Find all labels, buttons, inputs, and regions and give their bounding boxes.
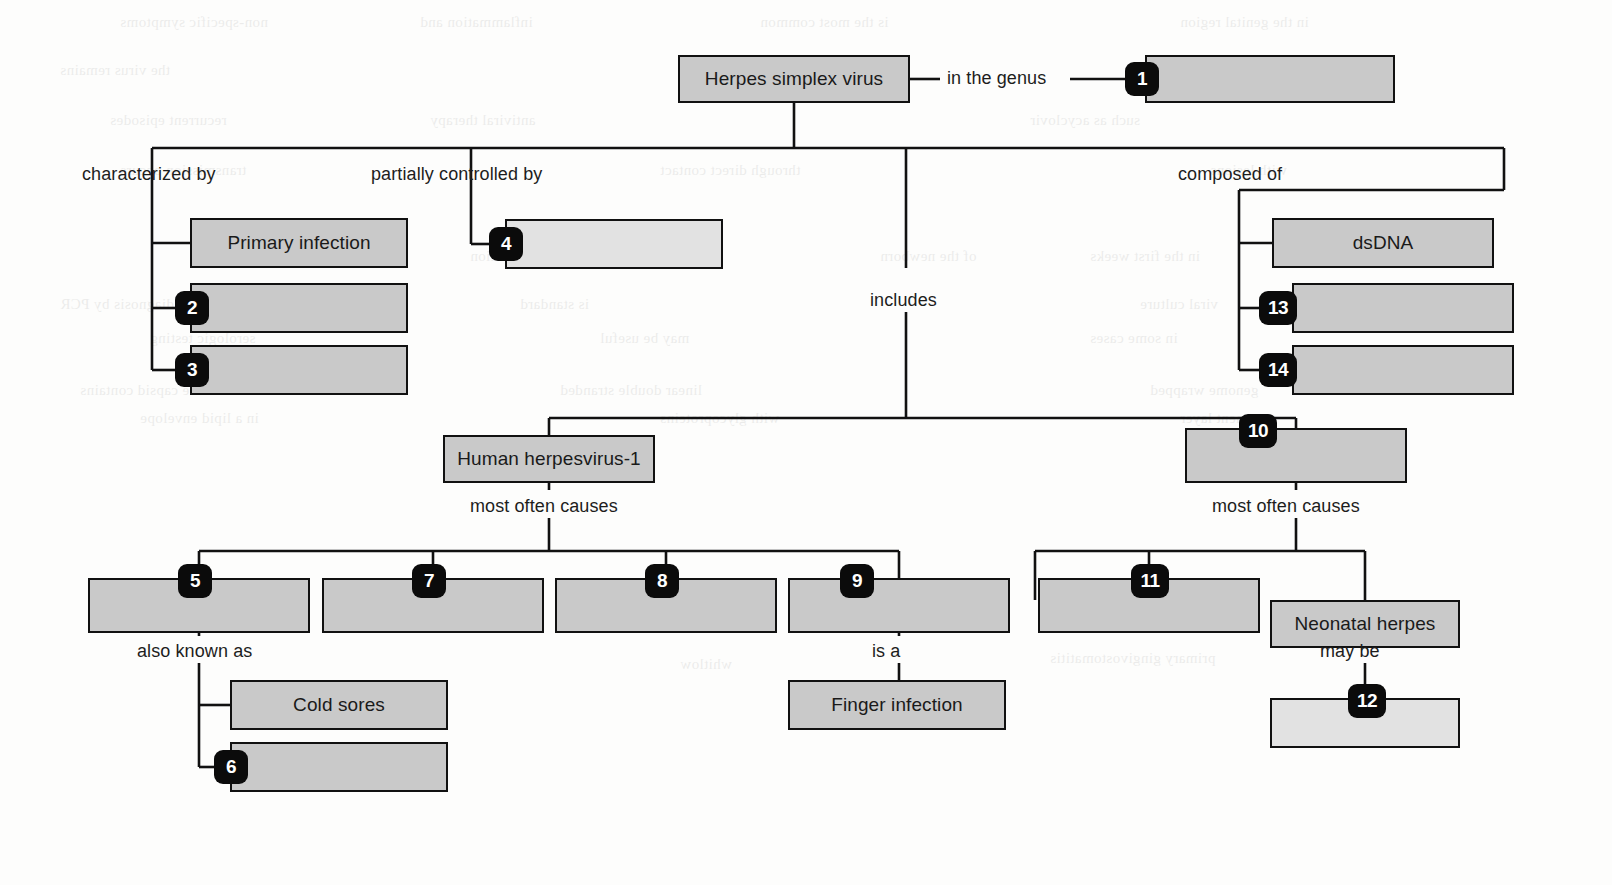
bleed-text: may be useful bbox=[600, 330, 689, 347]
link-label-composed-of: composed of bbox=[1178, 164, 1282, 185]
link-label-most-often-causes-right: most often causes bbox=[1212, 496, 1360, 517]
bleed-text: in a lipid envelope bbox=[140, 410, 259, 427]
blank-number-badge-7: 7 bbox=[412, 564, 446, 598]
node-n2[interactable] bbox=[190, 283, 408, 333]
node-label: Cold sores bbox=[293, 694, 385, 716]
blank-number-badge-14: 14 bbox=[1259, 353, 1297, 387]
node-primary[interactable]: Primary infection bbox=[190, 218, 408, 268]
node-dsdna[interactable]: dsDNA bbox=[1272, 218, 1494, 268]
bleed-text: antiviral therapy bbox=[430, 112, 536, 129]
node-n3[interactable] bbox=[190, 345, 408, 395]
link-label-also-known-as: also known as bbox=[137, 641, 252, 662]
bleed-text: the virus remains bbox=[60, 62, 170, 79]
node-n4[interactable] bbox=[505, 219, 723, 269]
node-n13[interactable] bbox=[1292, 283, 1514, 333]
node-n9[interactable] bbox=[788, 578, 1010, 633]
bleed-text: recurrent episodes bbox=[110, 112, 227, 129]
bleed-text: in some cases bbox=[1090, 330, 1178, 347]
link-label-may-be: may be bbox=[1320, 641, 1380, 662]
link-label-is-a: is a bbox=[872, 641, 900, 662]
bleed-text: through direct contact bbox=[660, 162, 800, 179]
node-cold[interactable]: Cold sores bbox=[230, 680, 448, 730]
node-n14[interactable] bbox=[1292, 345, 1514, 395]
node-label: Finger infection bbox=[831, 694, 963, 716]
blank-number-badge-9: 9 bbox=[840, 564, 874, 598]
bleed-text: non-specific symptoms bbox=[120, 14, 268, 31]
bleed-text: with glycoproteins bbox=[660, 410, 779, 427]
blank-number-badge-2: 2 bbox=[175, 291, 209, 325]
node-finger[interactable]: Finger infection bbox=[788, 680, 1006, 730]
node-label: Herpes simplex virus bbox=[705, 68, 883, 90]
bleed-text: in the first weeks bbox=[1090, 248, 1200, 265]
blank-number-badge-10: 10 bbox=[1239, 414, 1277, 448]
link-label-in-the-genus: in the genus bbox=[947, 68, 1046, 89]
blank-number-badge-13: 13 bbox=[1259, 291, 1297, 325]
blank-number-badge-12: 12 bbox=[1348, 684, 1386, 718]
link-label-includes: includes bbox=[870, 290, 937, 311]
node-label: Neonatal herpes bbox=[1295, 613, 1436, 635]
bleed-text: is the most common bbox=[760, 14, 888, 31]
node-n10[interactable] bbox=[1185, 428, 1407, 483]
node-n1[interactable] bbox=[1145, 55, 1395, 103]
bleed-text: whitlow bbox=[680, 656, 732, 673]
bleed-text: in the genital region bbox=[1180, 14, 1309, 31]
bleed-text: primary gingivostomatitis bbox=[1050, 650, 1215, 667]
node-label: dsDNA bbox=[1353, 232, 1414, 254]
blank-number-badge-3: 3 bbox=[175, 353, 209, 387]
node-label: Primary infection bbox=[227, 232, 370, 254]
bleed-text: linear double stranded bbox=[560, 382, 702, 399]
blank-number-badge-8: 8 bbox=[645, 564, 679, 598]
bleed-text: genome wrapped bbox=[1150, 382, 1258, 399]
bleed-text: viral culture bbox=[1140, 296, 1218, 313]
link-label-partially-controlled-by: partially controlled by bbox=[371, 164, 542, 185]
node-hhv1[interactable]: Human herpesvirus-1 bbox=[443, 435, 655, 483]
blank-number-badge-11: 11 bbox=[1131, 564, 1169, 598]
blank-number-badge-5: 5 bbox=[178, 564, 212, 598]
bleed-text: of the newborn bbox=[880, 248, 976, 265]
blank-number-badge-4: 4 bbox=[489, 227, 523, 261]
node-n6[interactable] bbox=[230, 742, 448, 792]
node-label: Human herpesvirus-1 bbox=[457, 448, 641, 470]
link-label-most-often-causes-left: most often causes bbox=[470, 496, 618, 517]
bleed-text: diagnosis by PCR bbox=[60, 296, 174, 313]
blank-number-badge-1: 1 bbox=[1125, 62, 1159, 96]
concept-map-canvas: non-specific symptomsinflammation andis … bbox=[0, 0, 1612, 885]
link-label-characterized-by: characterized by bbox=[82, 164, 216, 185]
blank-number-badge-6: 6 bbox=[214, 750, 248, 784]
node-root[interactable]: Herpes simplex virus bbox=[678, 55, 910, 103]
bleed-text: is standard bbox=[520, 296, 589, 313]
bleed-text: such as acyclovir bbox=[1030, 112, 1140, 129]
bleed-text: inflammation and bbox=[420, 14, 533, 31]
